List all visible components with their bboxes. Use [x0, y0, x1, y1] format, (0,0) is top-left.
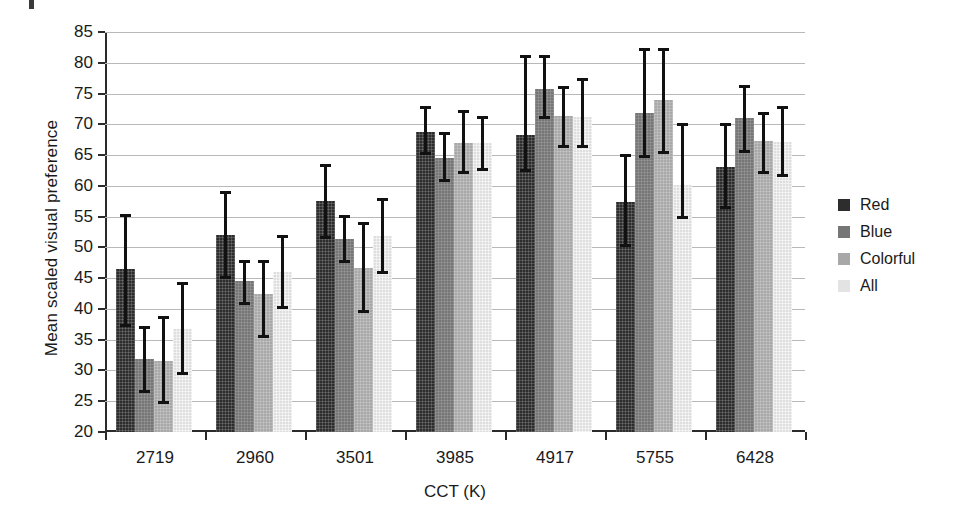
- error-cap: [377, 271, 388, 274]
- gridline: [105, 32, 805, 33]
- error-bar-colorful-3985: [462, 110, 465, 174]
- y-tick-label: 75: [47, 85, 93, 102]
- y-tick-mark: [98, 154, 105, 156]
- x-tick-mark: [705, 432, 707, 440]
- error-cap: [220, 191, 231, 194]
- error-cap: [420, 152, 431, 155]
- error-cap: [777, 106, 788, 109]
- y-tick-label: 35: [47, 331, 93, 348]
- error-cap: [277, 235, 288, 238]
- error-cap: [220, 276, 231, 279]
- gridline: [105, 94, 805, 95]
- legend-label: Red: [860, 197, 889, 213]
- legend-item-blue: Blue: [838, 218, 915, 245]
- error-cap: [177, 282, 188, 285]
- error-cap: [658, 48, 669, 51]
- error-cap: [739, 150, 750, 153]
- x-tick-mark: [805, 432, 807, 440]
- bar-red-4917: [516, 135, 535, 432]
- error-cap: [558, 86, 569, 89]
- error-bar-blue-2719: [143, 326, 146, 392]
- error-bar-all-2719: [181, 282, 184, 376]
- error-bar-all-6428: [781, 106, 784, 177]
- error-cap: [320, 164, 331, 167]
- legend-label: All: [860, 278, 878, 294]
- error-cap: [477, 116, 488, 119]
- error-cap: [639, 48, 650, 51]
- y-tick-label: 55: [47, 208, 93, 225]
- y-tick-mark: [98, 308, 105, 310]
- y-tick-mark: [98, 93, 105, 95]
- y-tick-mark: [98, 369, 105, 371]
- legend-swatch-colorful: [838, 253, 850, 265]
- bar-all-5755: [673, 185, 692, 432]
- x-tick-mark: [205, 432, 207, 440]
- x-tick-mark: [605, 432, 607, 440]
- gridline: [105, 63, 805, 64]
- y-tick-mark: [98, 339, 105, 341]
- error-bar-red-2960: [224, 191, 227, 280]
- error-cap: [120, 214, 131, 217]
- error-cap: [720, 123, 731, 126]
- bar-all-3985: [473, 143, 492, 432]
- error-cap: [339, 215, 350, 218]
- error-cap: [520, 55, 531, 58]
- error-cap: [758, 112, 769, 115]
- error-bar-colorful-3501: [362, 222, 365, 313]
- y-tick-mark: [98, 431, 105, 433]
- bar-all-4917: [573, 117, 592, 432]
- error-cap: [239, 260, 250, 263]
- error-cap: [658, 151, 669, 154]
- y-tick-label: 45: [47, 269, 93, 286]
- error-cap: [258, 335, 269, 338]
- error-cap: [539, 55, 550, 58]
- error-bar-blue-5755: [643, 48, 646, 158]
- error-cap: [620, 154, 631, 157]
- error-cap: [258, 260, 269, 263]
- bar-blue-3985: [435, 158, 454, 432]
- legend-item-all: All: [838, 272, 915, 299]
- error-cap: [758, 171, 769, 174]
- legend-label: Blue: [860, 224, 892, 240]
- error-cap: [320, 236, 331, 239]
- y-tick-mark: [98, 246, 105, 248]
- x-axis-title: CCT (K): [105, 482, 805, 502]
- legend-swatch-red: [838, 199, 850, 211]
- error-cap: [677, 216, 688, 219]
- error-bar-red-4917: [524, 55, 527, 172]
- x-tick-mark: [405, 432, 407, 440]
- error-cap: [239, 302, 250, 305]
- y-tick-label: 85: [47, 23, 93, 40]
- error-bar-all-3985: [481, 116, 484, 171]
- error-bar-blue-3501: [343, 215, 346, 263]
- error-cap: [458, 171, 469, 174]
- y-tick-mark: [98, 277, 105, 279]
- error-cap: [439, 179, 450, 182]
- error-bar-colorful-4917: [562, 86, 565, 148]
- bar-blue-6428: [735, 118, 754, 432]
- error-cap: [420, 106, 431, 109]
- y-tick-mark: [98, 123, 105, 125]
- error-bar-blue-2960: [243, 260, 246, 306]
- x-tick-mark: [105, 432, 107, 440]
- chart-legend: RedBlueColorfulAll: [838, 191, 915, 299]
- legend-item-red: Red: [838, 191, 915, 218]
- bar-red-3985: [416, 132, 435, 432]
- error-bar-colorful-6428: [762, 112, 765, 174]
- y-tick-label: 20: [47, 423, 93, 440]
- error-cap: [120, 324, 131, 327]
- error-cap: [577, 78, 588, 81]
- scan-artifact-speck: [29, 0, 34, 9]
- error-bar-red-2719: [124, 214, 127, 327]
- error-bar-blue-6428: [743, 85, 746, 153]
- error-cap: [577, 145, 588, 148]
- error-bar-colorful-2960: [262, 260, 265, 339]
- error-cap: [158, 316, 169, 319]
- error-cap: [558, 145, 569, 148]
- error-cap: [139, 390, 150, 393]
- bar-colorful-4917: [554, 116, 573, 432]
- bar-all-6428: [773, 142, 792, 432]
- y-tick-label: 40: [47, 300, 93, 317]
- error-cap: [777, 174, 788, 177]
- error-cap: [520, 169, 531, 172]
